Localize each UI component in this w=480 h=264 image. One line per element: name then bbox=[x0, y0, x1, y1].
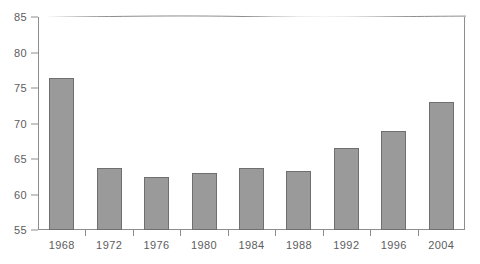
y-tick-label: 55 bbox=[14, 224, 27, 236]
x-tick-label: 1968 bbox=[49, 239, 75, 251]
y-tick-label: 85 bbox=[14, 11, 27, 23]
bar bbox=[49, 78, 74, 230]
y-tick-mark bbox=[31, 159, 38, 160]
x-tick-mark bbox=[418, 230, 419, 236]
y-tick-label: 75 bbox=[14, 82, 27, 94]
x-tick-label: 1972 bbox=[96, 239, 122, 251]
x-tick-label: 1984 bbox=[238, 239, 264, 251]
y-tick-label: 60 bbox=[14, 189, 27, 201]
y-tick-mark bbox=[31, 88, 38, 89]
x-tick-label: 2004 bbox=[428, 239, 454, 251]
y-tick-label: 65 bbox=[14, 153, 27, 165]
x-axis: 196819721976198019841988199219962004 bbox=[38, 230, 465, 264]
bar bbox=[429, 102, 454, 231]
y-tick-mark bbox=[31, 52, 38, 53]
bar bbox=[192, 173, 217, 230]
bar bbox=[334, 148, 359, 230]
y-axis: 55606570758085 bbox=[0, 0, 38, 264]
bar bbox=[239, 168, 264, 230]
y-tick-label: 70 bbox=[14, 118, 27, 130]
y-tick-mark bbox=[31, 123, 38, 124]
x-tick-mark bbox=[180, 230, 181, 236]
bar bbox=[286, 171, 311, 230]
y-tick-label: 80 bbox=[14, 47, 27, 59]
x-tick-mark bbox=[275, 230, 276, 236]
bar-chart: 55606570758085 1968197219761980198419881… bbox=[0, 0, 480, 264]
x-tick-mark bbox=[85, 230, 86, 236]
x-tick-label: 1988 bbox=[286, 239, 312, 251]
x-tick-mark bbox=[228, 230, 229, 236]
x-tick-label: 1980 bbox=[191, 239, 217, 251]
bar bbox=[381, 131, 406, 230]
x-tick-label: 1992 bbox=[333, 239, 359, 251]
x-tick-mark bbox=[323, 230, 324, 236]
x-tick-mark bbox=[133, 230, 134, 236]
x-tick-label: 1996 bbox=[381, 239, 407, 251]
bar bbox=[144, 177, 169, 230]
x-tick-label: 1976 bbox=[144, 239, 170, 251]
x-tick-mark bbox=[370, 230, 371, 236]
y-tick-mark bbox=[31, 194, 38, 195]
bar bbox=[97, 168, 122, 230]
y-tick-mark bbox=[31, 17, 38, 18]
y-tick-mark bbox=[31, 230, 38, 231]
plot-area bbox=[38, 17, 465, 230]
